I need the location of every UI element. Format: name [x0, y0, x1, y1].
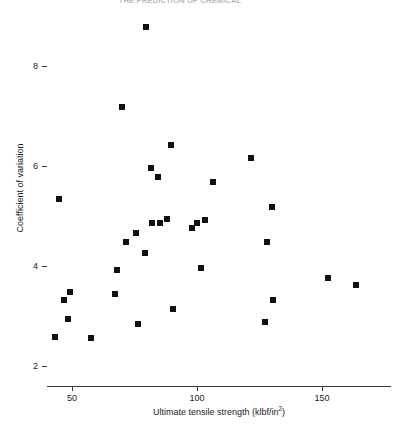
data-point	[148, 165, 154, 171]
y-axis-title: Coefficient of variation	[15, 98, 25, 278]
data-point	[112, 291, 118, 297]
data-point	[133, 230, 139, 236]
data-point	[170, 306, 176, 312]
data-point	[269, 204, 275, 210]
data-point	[353, 282, 359, 288]
x-tick-mark	[322, 386, 323, 391]
plot-area	[47, 16, 391, 386]
data-point	[202, 217, 208, 223]
data-point	[325, 275, 331, 281]
data-point	[248, 155, 254, 161]
x-axis-title-text: Ultimate tensile strength (klbf/in	[153, 407, 279, 417]
x-tick-mark	[197, 386, 198, 391]
data-point	[65, 316, 71, 322]
x-tick-label: 50	[52, 393, 92, 403]
data-point	[88, 335, 94, 341]
data-point	[114, 267, 120, 273]
data-point	[149, 220, 155, 226]
data-point	[155, 174, 161, 180]
data-point	[67, 289, 73, 295]
x-tick-mark	[72, 386, 73, 391]
data-point	[142, 250, 148, 256]
chart-title: THE PREDICTION OF CHEMICAL	[60, 0, 300, 5]
data-point	[52, 334, 58, 340]
data-point	[210, 179, 216, 185]
data-point	[168, 142, 174, 148]
y-tick-label: 8	[14, 61, 38, 71]
x-tick-label: 100	[177, 393, 217, 403]
y-tick-label: 2	[14, 361, 38, 371]
x-axis-title-tail: )	[282, 407, 285, 417]
data-point	[143, 24, 149, 30]
data-point	[123, 239, 129, 245]
data-point	[270, 297, 276, 303]
scatter-plot-figure: THE PREDICTION OF CHEMICAL 2468 50100150…	[0, 0, 393, 429]
data-point	[61, 297, 67, 303]
x-tick-label: 150	[302, 393, 342, 403]
data-point	[164, 216, 170, 222]
data-point	[262, 319, 268, 325]
data-point	[157, 220, 163, 226]
data-point	[189, 225, 195, 231]
data-point	[135, 321, 141, 327]
data-point	[264, 239, 270, 245]
x-axis-title: Ultimate tensile strength (klbf/in2)	[47, 407, 391, 417]
data-point	[56, 196, 62, 202]
data-point	[119, 104, 125, 110]
data-point	[198, 265, 204, 271]
